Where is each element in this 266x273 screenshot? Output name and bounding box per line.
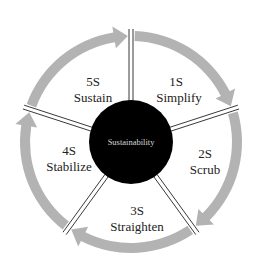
segment-2s-code: 2S [198, 146, 212, 161]
segment-divider-line [63, 173, 106, 232]
segment-divider-line [170, 109, 239, 132]
segment-3s-name: Straighten [110, 219, 164, 234]
segment-4s-name: Stabilize [46, 159, 92, 174]
five-s-cycle-diagram: Sustainability 1S Simplify 2S Scrub 3S S… [0, 0, 266, 273]
segment-3s-code: 3S [130, 203, 144, 218]
segment-divider-line [168, 105, 237, 128]
segment-divider-line [66, 176, 109, 235]
segment-1s-name: Simplify [156, 90, 202, 105]
center-label: Sustainability [108, 137, 156, 147]
segment-4s-code: 4S [62, 143, 76, 158]
segment-2s-name: Scrub [190, 162, 220, 177]
segment-1s-code: 1S [169, 74, 183, 89]
segment-5s-code: 5S [86, 74, 100, 89]
segment-5s-name: Sustain [74, 90, 113, 105]
